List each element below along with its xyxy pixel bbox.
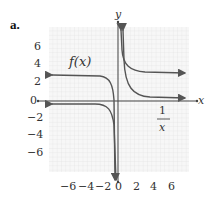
x-tick: 4 — [150, 180, 157, 193]
y-tick: 6 — [34, 40, 41, 53]
recip-numerator: 1 — [159, 104, 166, 117]
y-tick: 2 — [34, 75, 41, 88]
x-axis-label: x — [198, 94, 204, 107]
x-tick: −4 — [78, 180, 94, 193]
y-tick: 0 — [30, 94, 37, 107]
y-axis-label: y — [115, 8, 121, 21]
y-tick: 4 — [34, 57, 41, 70]
x-tick: −2 — [95, 180, 111, 193]
x-tick: −6 — [60, 180, 76, 193]
y-tick: −4 — [27, 128, 43, 141]
x-tick: 2 — [133, 180, 140, 193]
y-tick: −2 — [27, 111, 43, 124]
grid — [49, 27, 189, 172]
y-tick: −6 — [27, 146, 43, 159]
x-tick: 6 — [168, 180, 175, 193]
fx-label: f(x) — [69, 54, 91, 69]
x-tick: 0 — [115, 180, 122, 193]
recip-denominator: x — [159, 121, 165, 134]
